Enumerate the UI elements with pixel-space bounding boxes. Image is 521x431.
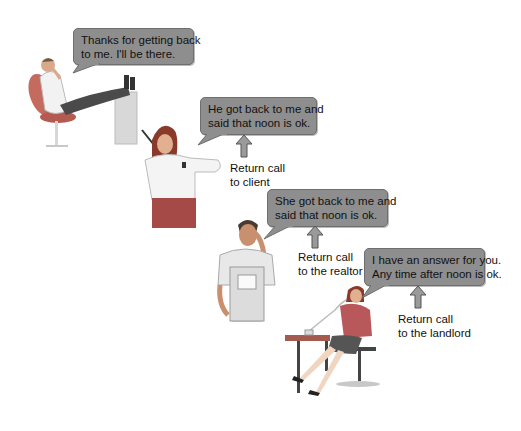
caption-return-call-landlord: Return call to the landlord <box>398 312 471 340</box>
speech-bubble-1-tail <box>70 63 110 75</box>
speech-bubble-4: I have an answer for you. Any time after… <box>364 248 485 286</box>
caption-3-line-2: to the realtor <box>298 264 363 278</box>
bubble-4-line-2: Any time after noon is ok. <box>372 267 477 281</box>
bubble-3-line-1: She got back to me and <box>275 194 380 208</box>
bubble-2-line-1: He got back to me and <box>208 102 309 116</box>
speech-bubble-3-tail <box>262 225 302 241</box>
caption-4-line-1: Return call <box>398 312 471 326</box>
caption-3-line-1: Return call <box>298 250 363 264</box>
bubble-2-line-2: said that noon is ok. <box>208 116 309 130</box>
speech-bubble-3: She got back to me and said that noon is… <box>267 189 388 227</box>
speech-bubble-2-tail <box>196 133 236 147</box>
speech-bubble-1: Thanks for getting back to me. I'll be t… <box>73 28 194 65</box>
caption-2-line-1: Return call <box>230 161 285 175</box>
bubble-1-line-2: to me. I'll be there. <box>81 47 186 61</box>
bubble-4-line-1: I have an answer for you. <box>372 253 477 267</box>
up-arrow-icon <box>409 285 427 309</box>
speech-bubble-2: He got back to me and said that noon is … <box>200 97 317 135</box>
caption-return-call-client: Return call to client <box>230 161 285 189</box>
up-arrow-icon <box>306 225 324 249</box>
caption-2-line-2: to client <box>230 175 285 189</box>
bubble-3-line-2: said that noon is ok. <box>275 208 380 222</box>
up-arrow-icon <box>235 134 253 158</box>
caption-4-line-2: to the landlord <box>398 326 471 340</box>
speech-bubble-4-tail <box>360 284 400 300</box>
bubble-1-line-1: Thanks for getting back <box>81 33 186 47</box>
caption-return-call-realtor: Return call to the realtor <box>298 250 363 278</box>
